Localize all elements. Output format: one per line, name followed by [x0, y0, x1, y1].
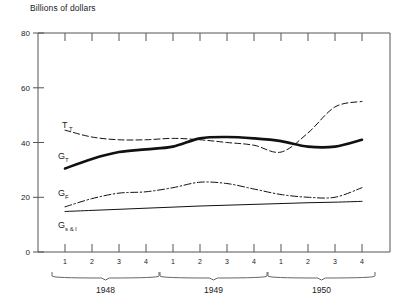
top-axis-ticks: [65, 33, 362, 41]
year-label: 1950: [312, 285, 331, 295]
year-bracket: [268, 272, 375, 280]
x-tick-label: 1: [171, 258, 175, 265]
chart-container: Billions of dollars 80 60 40 20 0: [0, 0, 412, 303]
year-label: 1948: [96, 285, 115, 295]
y-tick-20: 20: [21, 193, 30, 202]
year-label: 1949: [204, 285, 223, 295]
y-tick-40: 40: [21, 139, 30, 148]
series-label-tt: T T: [62, 120, 73, 132]
x-tick-label: 4: [144, 258, 148, 265]
series-label-gt-sub: T: [65, 157, 69, 163]
x-tick-label: 1: [63, 258, 67, 265]
series-label-tt-main: T: [62, 120, 68, 130]
year-bracket: [160, 272, 267, 280]
y-tick-0: 0: [26, 248, 31, 257]
x-tick-label: 3: [333, 258, 337, 265]
x-tick-label: 4: [252, 258, 256, 265]
y-tick-60: 60: [21, 84, 30, 93]
plot-frame: [38, 33, 390, 252]
x-tick-label: 2: [90, 258, 94, 265]
series-label-gsl-main: G: [58, 220, 65, 230]
series-label-gsl-sub: s & l: [65, 226, 77, 232]
year-brackets: 194819491950: [52, 272, 375, 295]
y-axis-tick-labels: 80 60 40 20 0: [21, 29, 30, 257]
series-label-gf: G F: [58, 188, 69, 200]
x-tick-label: 4: [360, 258, 364, 265]
series-label-gf-main: G: [58, 188, 65, 198]
series-label-gt: G T: [58, 151, 69, 163]
series-label-tt-sub: T: [69, 126, 73, 132]
data-series-layer: [65, 101, 362, 211]
y-tick-80: 80: [21, 29, 30, 38]
x-tick-label: 2: [306, 258, 310, 265]
quarter-labels: 123412341234: [63, 258, 364, 265]
series-line-g-f: [65, 182, 362, 207]
series-label-gsl: G s & l: [58, 220, 77, 232]
chart-svg: 80 60 40 20 0: [0, 0, 412, 303]
series-label-gt-main: G: [58, 151, 65, 161]
x-tick-label: 2: [198, 258, 202, 265]
series-label-gf-sub: F: [65, 194, 69, 200]
x-tick-label: 1: [279, 258, 283, 265]
x-tick-label: 3: [117, 258, 121, 265]
year-bracket: [52, 272, 159, 280]
x-axis-ticks: [65, 244, 362, 252]
series-line-g-s-l: [65, 201, 362, 211]
series-line-g-t: [65, 137, 362, 169]
x-tick-label: 3: [225, 258, 229, 265]
series-line-t-t: [65, 101, 362, 152]
